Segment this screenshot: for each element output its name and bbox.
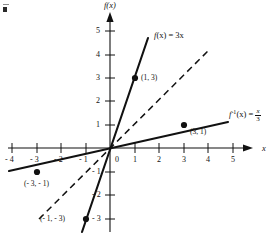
line-of-symmetry-y-equals-x: [39, 51, 208, 219]
y-tick-label-1: 1: [96, 121, 100, 129]
x-axis-title: x: [262, 144, 266, 153]
y-tick-label-neg3: - 3: [92, 215, 101, 223]
x-axis: [8, 144, 253, 151]
curve-f-of-x: [82, 38, 148, 232]
inverse-label-expression: (x) =: [236, 109, 255, 119]
fraction-denominator: 3: [255, 116, 261, 123]
x-tick-label-5: 5: [231, 156, 235, 164]
y-tick-label-3: 3: [96, 74, 100, 82]
y-tick-label-2: 2: [96, 97, 100, 105]
point-label-neg1-neg3: (- 1, - 3): [40, 215, 65, 223]
x-tick-label-neg3: - 3: [30, 156, 39, 164]
data-point-neg3-neg1: [34, 169, 40, 175]
point-label-3-1: (3, 1): [190, 128, 206, 136]
y-tick-label-4: 4: [96, 51, 100, 59]
y-tick-label-neg1: - 1: [92, 168, 101, 176]
x-tick-label-neg1: - 1: [79, 156, 88, 164]
x-tick-label-neg4: - 4: [5, 156, 14, 164]
y-axis: [106, 12, 113, 232]
data-point-3-1: [181, 122, 187, 128]
curve-label-f-expression: (x) = 3x: [156, 30, 183, 40]
x-tick-label-3: 3: [182, 156, 186, 164]
y-tick-label-5: 5: [96, 27, 100, 35]
x-tick-label-0: 0: [115, 156, 119, 164]
point-label-1-3: (1, 3): [141, 74, 157, 82]
x-tick-label-2: 2: [157, 156, 161, 164]
y-axis-title: f(x): [104, 1, 116, 10]
y-tick-label-neg2: - 2: [92, 191, 101, 199]
x-tick-label-1: 1: [133, 156, 137, 164]
inverse-label-fraction: x3: [255, 108, 261, 123]
curve-label-f-inverse: f-1(x) = x3: [229, 108, 261, 123]
inverse-function-graph-figure: f(x) x 5 4 3 2 1 - 1 - 2 - 3 - 4 - 3 - 2…: [0, 0, 275, 245]
x-tick-label-4: 4: [206, 156, 210, 164]
x-tick-label-neg2: - 2: [54, 156, 63, 164]
data-point-neg1-neg3: [83, 216, 89, 222]
data-point-1-3: [132, 75, 138, 81]
curve-label-f-of-x: f(x) = 3x: [154, 31, 184, 40]
point-label-neg3-neg1: (- 3, - 1): [24, 180, 49, 188]
